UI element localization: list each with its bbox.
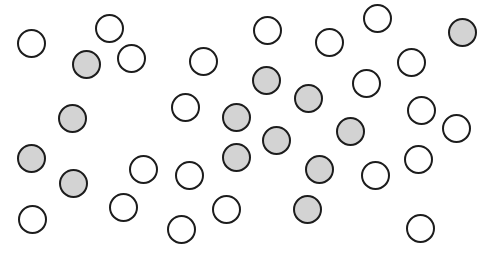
- empty-circle: [171, 93, 200, 122]
- empty-circle: [253, 16, 282, 45]
- empty-circle: [404, 145, 433, 174]
- filled-circle: [252, 66, 281, 95]
- filled-circle: [59, 169, 88, 198]
- circle-field: [0, 0, 490, 260]
- empty-circle: [175, 161, 204, 190]
- filled-circle: [336, 117, 365, 146]
- filled-circle: [72, 50, 101, 79]
- empty-circle: [18, 205, 47, 234]
- empty-circle: [167, 215, 196, 244]
- empty-circle: [406, 214, 435, 243]
- empty-circle: [361, 161, 390, 190]
- filled-circle: [293, 195, 322, 224]
- empty-circle: [189, 47, 218, 76]
- filled-circle: [222, 143, 251, 172]
- empty-circle: [442, 114, 471, 143]
- empty-circle: [17, 29, 46, 58]
- empty-circle: [117, 44, 146, 73]
- empty-circle: [397, 48, 426, 77]
- filled-circle: [294, 84, 323, 113]
- empty-circle: [352, 69, 381, 98]
- filled-circle: [17, 144, 46, 173]
- empty-circle: [407, 96, 436, 125]
- filled-circle: [222, 103, 251, 132]
- empty-circle: [363, 4, 392, 33]
- filled-circle: [448, 18, 477, 47]
- empty-circle: [315, 28, 344, 57]
- empty-circle: [95, 14, 124, 43]
- empty-circle: [109, 193, 138, 222]
- empty-circle: [129, 155, 158, 184]
- empty-circle: [212, 195, 241, 224]
- filled-circle: [262, 126, 291, 155]
- filled-circle: [58, 104, 87, 133]
- filled-circle: [305, 155, 334, 184]
